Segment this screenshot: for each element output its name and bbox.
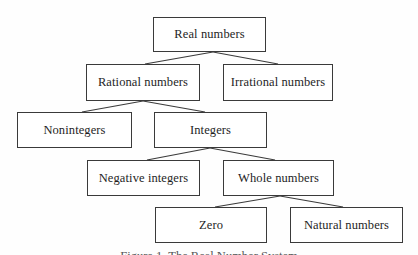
node-real-numbers: Real numbers [153, 17, 266, 52]
node-integers: Integers [154, 112, 267, 148]
node-label: Whole numbers [238, 171, 319, 186]
edge-whole-to-natural [280, 196, 343, 207]
edge-rational-to-nonintegers [82, 101, 143, 112]
edge-real-to-irrational [213, 52, 278, 64]
edge-whole-to-zero [215, 196, 280, 207]
node-natural-numbers: Natural numbers [290, 207, 403, 243]
edge-integers-to-whole [210, 148, 275, 160]
node-label: Negative integers [99, 171, 189, 186]
node-whole-numbers: Whole numbers [223, 160, 334, 196]
node-irrational-numbers: Irrational numbers [223, 64, 333, 101]
node-label: Zero [199, 218, 223, 233]
node-label: Natural numbers [304, 218, 389, 233]
node-label: Real numbers [174, 27, 244, 42]
node-label: Rational numbers [98, 75, 188, 90]
node-negative-integers: Negative integers [87, 160, 200, 196]
node-nonintegers: Nonintegers [17, 112, 132, 148]
edge-real-to-rational [145, 52, 213, 64]
figure-caption: Figure 1. The Real Number System [0, 249, 418, 255]
node-zero: Zero [155, 207, 267, 243]
edge-rational-to-integers [143, 101, 205, 112]
diagram-canvas: Real numbers Rational numbers Irrational… [0, 0, 418, 255]
node-label: Irrational numbers [231, 75, 325, 90]
node-label: Nonintegers [43, 123, 105, 138]
node-label: Integers [190, 123, 231, 138]
node-rational-numbers: Rational numbers [86, 64, 200, 101]
edge-integers-to-negative [147, 148, 210, 160]
